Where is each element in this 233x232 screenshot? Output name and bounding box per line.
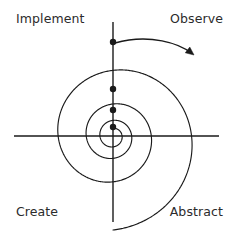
quadrant-label-observe: Observe (170, 12, 223, 26)
spiral-crossing-dot (110, 86, 116, 92)
spiral-crossing-dot (110, 107, 116, 113)
quadrant-label-implement: Implement (16, 12, 85, 26)
spiral-crossing-dot (110, 124, 116, 130)
spiral-crossing-dot (110, 39, 116, 45)
direction-arrow (115, 39, 194, 55)
direction-arrow-curve (115, 39, 191, 53)
quadrant-label-abstract: Abstract (170, 205, 223, 219)
spiral-diagram-figure: Implement Observe Create Abstract (0, 0, 233, 232)
diagram-canvas (0, 0, 233, 232)
quadrant-label-create: Create (16, 205, 58, 219)
direction-arrow-head (185, 47, 194, 55)
